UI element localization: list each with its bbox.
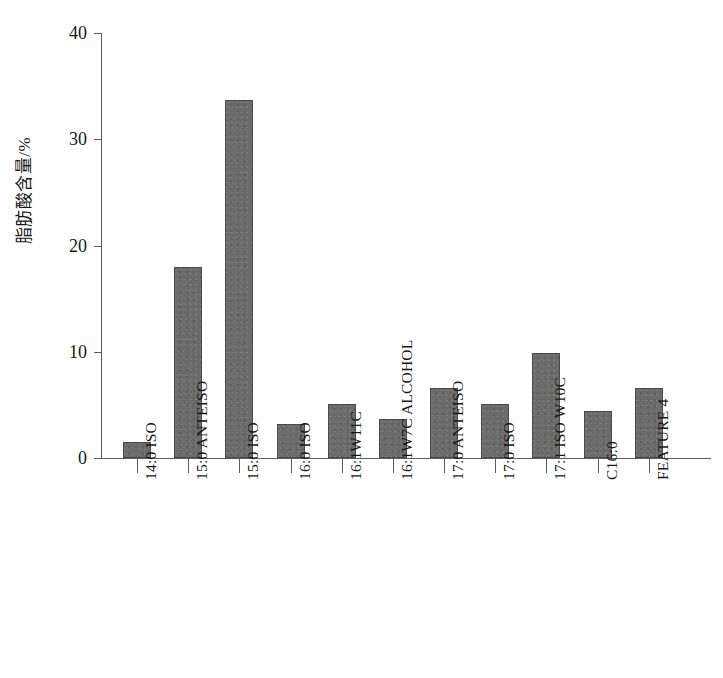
y-tick-mark xyxy=(94,246,102,247)
y-tick-mark xyxy=(94,458,102,459)
x-tick-label: 15:0 ANTEISO xyxy=(194,381,210,480)
y-tick-label: 10 xyxy=(43,343,87,361)
y-tick-mark xyxy=(94,352,102,353)
plot-area: 010203040 14:0 ISO15:0 ANTEISO15:0 ISO16… xyxy=(101,33,711,458)
x-tick-mark xyxy=(546,459,547,473)
x-tick-mark xyxy=(393,459,394,473)
x-tick-label: 17:0 ANTEISO xyxy=(450,381,466,480)
y-tick-mark xyxy=(94,33,102,34)
y-tick-mark xyxy=(94,139,102,140)
x-tick-label: 17:0 ISO xyxy=(501,422,517,480)
x-tick-mark xyxy=(239,459,240,473)
y-axis-label: 脂肪酸含量/% xyxy=(10,121,35,261)
y-tick-label: 20 xyxy=(43,237,87,255)
y-tick-label: 0 xyxy=(43,449,87,467)
y-tick-label: 40 xyxy=(43,24,87,42)
x-tick-mark xyxy=(444,459,445,473)
x-tick-label: 14:0 ISO xyxy=(143,422,159,480)
bar xyxy=(225,100,253,458)
x-tick-mark xyxy=(342,459,343,473)
y-tick-label: 30 xyxy=(43,130,87,148)
x-tick-label: 16:0 ISO xyxy=(297,422,313,480)
x-tick-label: 16:1W11C xyxy=(348,411,364,480)
x-tick-label: FEATURE 4 xyxy=(655,399,671,480)
x-tick-mark xyxy=(598,459,599,473)
x-tick-mark xyxy=(137,459,138,473)
x-tick-mark xyxy=(291,459,292,473)
x-tick-label: 15:0 ISO xyxy=(245,422,261,480)
x-tick-mark xyxy=(495,459,496,473)
bar-chart-figure: 脂肪酸含量/% 010203040 14:0 ISO15:0 ANTEISO15… xyxy=(0,0,723,678)
x-tick-label: C16:0 xyxy=(604,441,620,480)
x-tick-mark xyxy=(649,459,650,473)
x-tick-mark xyxy=(188,459,189,473)
x-tick-label: 16:1W7C ALCOHOL xyxy=(399,340,415,480)
x-tick-label: 17:1 ISO W10C xyxy=(552,377,568,480)
